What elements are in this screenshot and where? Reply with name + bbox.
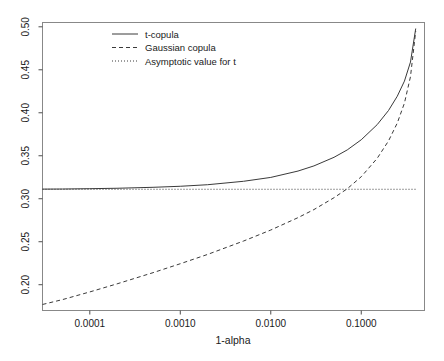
- legend-label: Asymptotic value for t: [145, 56, 236, 67]
- series-line-t-copula: [43, 29, 416, 190]
- y-axis-ticks: [39, 27, 43, 285]
- y-tick-label: 0.20: [20, 275, 31, 295]
- data-series-group: [43, 29, 416, 305]
- y-tick-label: 0.25: [20, 232, 31, 252]
- x-axis-ticks: [90, 311, 361, 315]
- x-axis-tick-labels: 0.00010.00100.01000.1000: [75, 318, 377, 329]
- y-tick-label: 0.35: [20, 146, 31, 166]
- chart-figure: 0.200.250.300.350.400.450.50 0.00010.001…: [0, 0, 444, 361]
- legend-label: Gaussian copula: [145, 42, 216, 53]
- x-tick-label: 0.0001: [75, 318, 106, 329]
- y-axis-tick-labels: 0.200.250.300.350.400.450.50: [20, 17, 31, 295]
- legend-label: t-copula: [145, 29, 180, 40]
- chart-legend: t-copulaGaussian copulaAsymptotic value …: [112, 29, 236, 67]
- y-tick-label: 0.30: [20, 189, 31, 209]
- x-axis-title: 1-alpha: [215, 334, 250, 346]
- y-tick-label: 0.40: [20, 103, 31, 123]
- y-tick-label: 0.50: [20, 17, 31, 37]
- x-tick-label: 0.1000: [346, 318, 377, 329]
- y-tick-label: 0.45: [20, 60, 31, 80]
- chart-canvas: 0.200.250.300.350.400.450.50 0.00010.001…: [0, 0, 444, 361]
- x-tick-label: 0.0100: [255, 318, 286, 329]
- x-tick-label: 0.0010: [165, 318, 196, 329]
- series-line-gaussian-copula: [43, 31, 416, 304]
